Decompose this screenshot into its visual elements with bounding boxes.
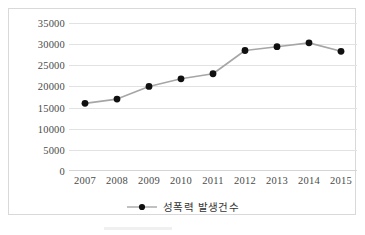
y-axis: 05000100001500020000250003000035000 xyxy=(9,23,65,171)
data-point-marker xyxy=(210,70,217,77)
y-axis-tick-label: 25000 xyxy=(11,60,65,71)
line-series xyxy=(69,23,357,171)
x-axis-tick-label: 2009 xyxy=(138,175,160,186)
y-axis-tick-label: 20000 xyxy=(11,81,65,92)
data-point-marker xyxy=(242,47,249,54)
y-axis-tick-label: 10000 xyxy=(11,123,65,134)
x-axis-tick-label: 2008 xyxy=(106,175,128,186)
x-axis-tick-label: 2010 xyxy=(170,175,192,186)
x-axis-tick-label: 2012 xyxy=(234,175,256,186)
x-axis-tick-label: 2015 xyxy=(330,175,352,186)
chart-frame: 05000100001500020000250003000035000 2007… xyxy=(8,8,356,215)
data-point-marker xyxy=(146,83,153,90)
data-point-marker xyxy=(274,43,281,50)
chart-legend: 성폭력 발생건수 xyxy=(9,199,357,214)
legend-marker-icon xyxy=(127,202,157,212)
legend-label: 성폭력 발생건수 xyxy=(163,199,239,214)
x-axis: 200720082009201020112012201320142015 xyxy=(69,175,357,193)
chart-figure: 05000100001500020000250003000035000 2007… xyxy=(0,0,365,235)
x-axis-tick-label: 2014 xyxy=(298,175,320,186)
data-point-marker xyxy=(338,48,345,55)
y-axis-tick-label: 35000 xyxy=(11,18,65,29)
x-axis-tick-label: 2007 xyxy=(74,175,96,186)
x-axis-tick-label: 2011 xyxy=(202,175,223,186)
y-axis-tick-label: 15000 xyxy=(11,102,65,113)
data-point-marker xyxy=(178,75,185,82)
data-point-marker xyxy=(306,39,313,46)
y-axis-tick-label: 5000 xyxy=(11,144,65,155)
scan-artifact xyxy=(104,227,172,230)
plot-area xyxy=(69,23,357,171)
x-axis-tick-label: 2013 xyxy=(266,175,288,186)
y-axis-tick-label: 30000 xyxy=(11,39,65,50)
data-point-marker xyxy=(82,100,89,107)
data-point-marker xyxy=(114,96,121,103)
y-axis-tick-label: 0 xyxy=(11,166,65,177)
